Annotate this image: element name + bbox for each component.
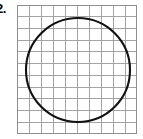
grid-panel	[17, 5, 137, 134]
figure-container: 2.	[0, 0, 143, 139]
grid-lines	[17, 5, 137, 134]
problem-number-label: 2.	[0, 1, 12, 17]
